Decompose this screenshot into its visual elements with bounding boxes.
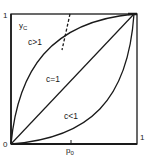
y-max-label: 1	[3, 11, 8, 20]
curve-c-equals-1	[11, 14, 134, 144]
x-axis-label: p0	[66, 146, 74, 156]
dashed-marker	[62, 14, 70, 50]
label-c-less-1: c<1	[64, 111, 78, 121]
y-axis-label: yC	[19, 21, 28, 31]
x-max-label: 1	[140, 133, 145, 142]
diagram-canvas: 1 0 1 yC p0 c>1 c=1 c<1	[0, 0, 148, 159]
label-c-greater-1: c>1	[28, 37, 42, 47]
label-c-equals-1: c=1	[46, 74, 60, 84]
origin-label: 0	[3, 140, 8, 149]
